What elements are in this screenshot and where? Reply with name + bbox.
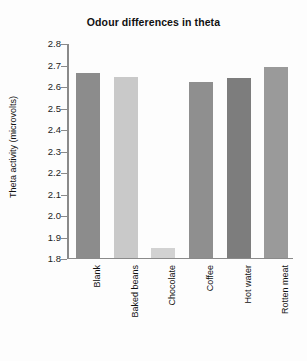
y-axis-tick bbox=[61, 238, 67, 239]
bar bbox=[151, 248, 175, 257]
y-axis-tick-label: 2.8 bbox=[31, 39, 61, 49]
y-axis-tick-label: 2.3 bbox=[31, 147, 61, 157]
y-axis-title-text: Theta activity (microvolts) bbox=[8, 96, 18, 198]
y-axis-tick bbox=[61, 195, 67, 196]
x-axis-category-label: Blank bbox=[92, 265, 102, 288]
y-axis-tick bbox=[61, 66, 67, 67]
y-axis-title: Theta activity (microvolts) bbox=[4, 38, 22, 256]
plot-area: 2.82.72.62.52.42.32.22.12.01.91.8 bbox=[67, 44, 293, 259]
x-axis-category-label: Coffee bbox=[205, 265, 215, 291]
bar bbox=[264, 67, 288, 258]
bar bbox=[227, 78, 251, 257]
y-axis-tick bbox=[61, 259, 67, 260]
y-axis-tick-label: 2.6 bbox=[31, 82, 61, 92]
y-axis-tick bbox=[61, 216, 67, 217]
bar bbox=[114, 77, 138, 257]
y-axis-tick-label: 2.0 bbox=[31, 211, 61, 221]
y-axis-tick bbox=[61, 109, 67, 110]
x-axis-line bbox=[67, 258, 293, 260]
y-axis-tick bbox=[61, 173, 67, 174]
y-axis-tick-label: 2.2 bbox=[31, 168, 61, 178]
x-axis-category-label: Baked beans bbox=[130, 265, 140, 318]
y-axis-tick bbox=[61, 152, 67, 153]
chart-title: Odour differences in theta bbox=[0, 16, 307, 28]
bar bbox=[76, 73, 100, 257]
y-axis-tick-label: 1.9 bbox=[31, 233, 61, 243]
bar bbox=[189, 82, 213, 258]
y-axis-tick-label: 2.7 bbox=[31, 61, 61, 71]
y-axis-tick bbox=[61, 44, 67, 45]
y-axis-tick bbox=[61, 130, 67, 131]
y-axis-line bbox=[67, 44, 69, 259]
chart-figure: Odour differences in theta Theta activit… bbox=[0, 0, 307, 361]
x-axis-category-label: Rotten meat bbox=[280, 265, 290, 314]
y-axis-tick-label: 1.8 bbox=[31, 254, 61, 264]
x-axis-category-label: Chocolate bbox=[167, 265, 177, 306]
y-axis-tick-label: 2.5 bbox=[31, 104, 61, 114]
y-axis-tick-label: 2.4 bbox=[31, 125, 61, 135]
x-axis-category-label: Hot water bbox=[243, 265, 253, 304]
y-axis-tick-label: 2.1 bbox=[31, 190, 61, 200]
y-axis-tick bbox=[61, 87, 67, 88]
